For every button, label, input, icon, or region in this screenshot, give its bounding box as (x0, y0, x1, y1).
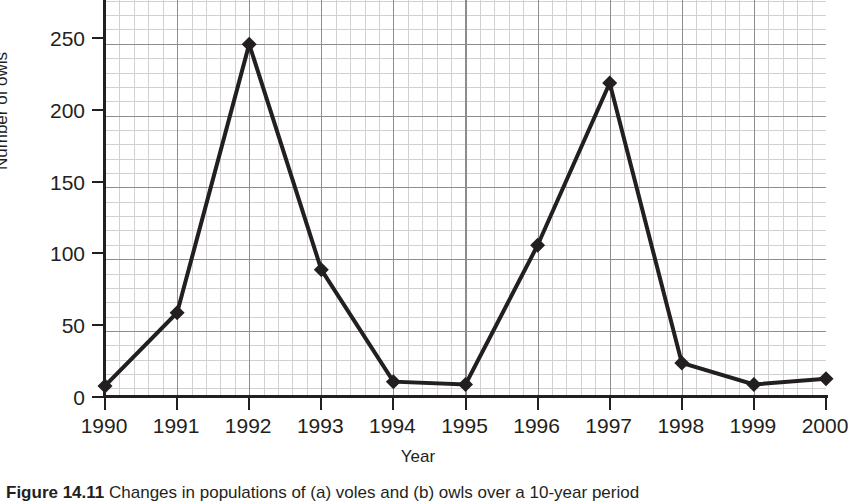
figure-caption: Figure 14.11 Changes in populations of (… (0, 483, 836, 503)
x-axis-tick-label: 2000 (802, 414, 848, 438)
y-axis-title: Number of owls (0, 52, 12, 170)
x-axis-tick (681, 398, 683, 410)
x-axis-tick (176, 398, 178, 410)
x-axis-tick-label: 1990 (81, 414, 128, 438)
y-axis-tick-label: 50 (62, 315, 85, 336)
y-axis-tick-label: 150 (50, 171, 85, 192)
x-axis: 1990199119921993199419951996199719981999… (103, 395, 828, 398)
x-axis-tick (320, 398, 322, 410)
x-axis-tick-label: 1993 (297, 414, 344, 438)
y-axis-tick-label: 250 (50, 28, 85, 49)
x-axis-tick (392, 398, 394, 410)
y-axis-tick-label: 0 (73, 387, 85, 408)
x-axis-tick (825, 398, 827, 410)
x-axis-tick (609, 398, 611, 410)
y-axis-tick: 100 (92, 252, 103, 254)
x-axis-tick-label: 1996 (513, 414, 560, 438)
y-axis-tick: 150 (92, 181, 103, 183)
y-axis-tick: 0 (92, 396, 103, 398)
x-axis-tick (753, 398, 755, 410)
x-axis-tick-label: 1997 (585, 414, 632, 438)
major-gridlines (105, 0, 826, 396)
x-axis-tick (104, 398, 106, 410)
y-axis-tick-label: 200 (50, 99, 85, 120)
x-axis-tick (465, 398, 467, 410)
x-axis-tick-label: 1995 (441, 414, 488, 438)
x-axis-tick (537, 398, 539, 410)
x-axis-tick-label: 1991 (153, 414, 200, 438)
figure-caption-text: Changes in populations of (a) voles and … (104, 483, 639, 502)
x-axis-tick-label: 1998 (657, 414, 704, 438)
y-axis-tick-label: 100 (50, 243, 85, 264)
x-axis-tick-label: 1994 (369, 414, 416, 438)
y-axis-tick: 200 (92, 109, 103, 111)
y-axis-tick: 250 (92, 37, 103, 39)
x-axis-title: Year (0, 447, 836, 467)
x-axis-tick (248, 398, 250, 410)
y-axis-tick: 50 (92, 324, 103, 326)
x-axis-tick-label: 1992 (225, 414, 272, 438)
figure-caption-label: Figure 14.11 (6, 483, 104, 502)
y-axis: 050100150200250 (103, 0, 106, 398)
x-axis-tick-label: 1999 (730, 414, 777, 438)
plot-area (105, 0, 826, 396)
